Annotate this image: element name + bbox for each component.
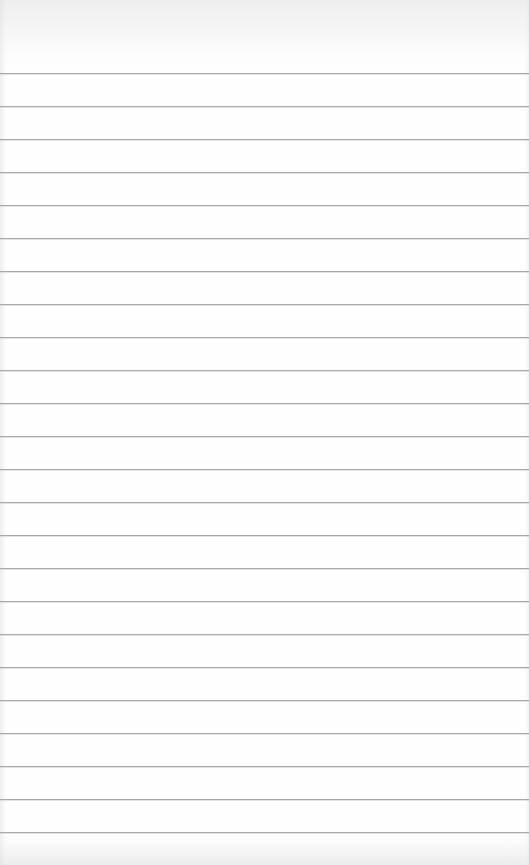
- ruled-line: [0, 304, 529, 305]
- ruled-line: [0, 205, 529, 206]
- ruled-line: [0, 733, 529, 734]
- ruled-line: [0, 634, 529, 635]
- ruled-line: [0, 799, 529, 800]
- ruled-line: [0, 667, 529, 668]
- ruled-line: [0, 403, 529, 404]
- ruled-line: [0, 271, 529, 272]
- lined-paper: [0, 0, 529, 865]
- ruled-line: [0, 535, 529, 536]
- ruled-line: [0, 568, 529, 569]
- ruled-line: [0, 832, 529, 833]
- ruled-line: [0, 700, 529, 701]
- ruled-line: [0, 469, 529, 470]
- ruled-line: [0, 601, 529, 602]
- ruled-line: [0, 502, 529, 503]
- ruled-line: [0, 370, 529, 371]
- ruled-line: [0, 139, 529, 140]
- ruled-line: [0, 766, 529, 767]
- ruled-line: [0, 106, 529, 107]
- ruled-line: [0, 172, 529, 173]
- ruled-line: [0, 436, 529, 437]
- ruled-line: [0, 337, 529, 338]
- ruled-line: [0, 73, 529, 74]
- ruled-line: [0, 238, 529, 239]
